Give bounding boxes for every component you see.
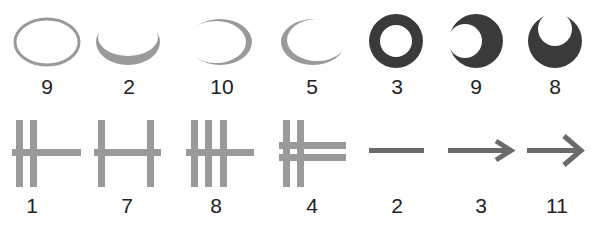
label-arrow-large: 11 — [527, 195, 587, 216]
ellipse-uniform-icon — [12, 16, 84, 68]
label-double-horizontal: 4 — [282, 195, 342, 216]
disk-hole-top-icon — [527, 13, 587, 69]
two-verticals-spread-icon — [94, 120, 166, 190]
ellipse-thick-bottom-icon — [93, 16, 165, 68]
label-two-verticals-spread: 7 — [97, 195, 157, 216]
label-ellipse-thick-right: 10 — [192, 76, 252, 97]
horizontal-line-icon — [369, 146, 429, 158]
double-horizontal-icon — [279, 120, 351, 190]
arrow-small-icon — [448, 138, 518, 164]
two-verticals-left-icon — [12, 120, 84, 190]
label-disk-hole-top: 8 — [525, 76, 585, 97]
label-arrow-small: 3 — [451, 195, 511, 216]
ellipse-thick-left-icon — [278, 16, 350, 68]
disk-hole-left-icon — [448, 13, 508, 69]
label-three-verticals: 8 — [186, 195, 246, 216]
three-verticals-icon — [186, 120, 258, 190]
label-disk-hole-left: 9 — [446, 76, 506, 97]
label-ellipse-uniform: 9 — [17, 76, 77, 97]
ring-centered-icon — [368, 13, 428, 69]
ellipse-thick-right-icon — [185, 16, 257, 68]
label-ellipse-thick-bottom: 2 — [99, 76, 159, 97]
label-horizontal-line: 2 — [367, 195, 427, 216]
label-ring-centered: 3 — [367, 76, 427, 97]
label-two-verticals-left: 1 — [2, 195, 62, 216]
label-ellipse-thick-left: 5 — [282, 76, 342, 97]
arrow-large-icon — [527, 134, 597, 170]
